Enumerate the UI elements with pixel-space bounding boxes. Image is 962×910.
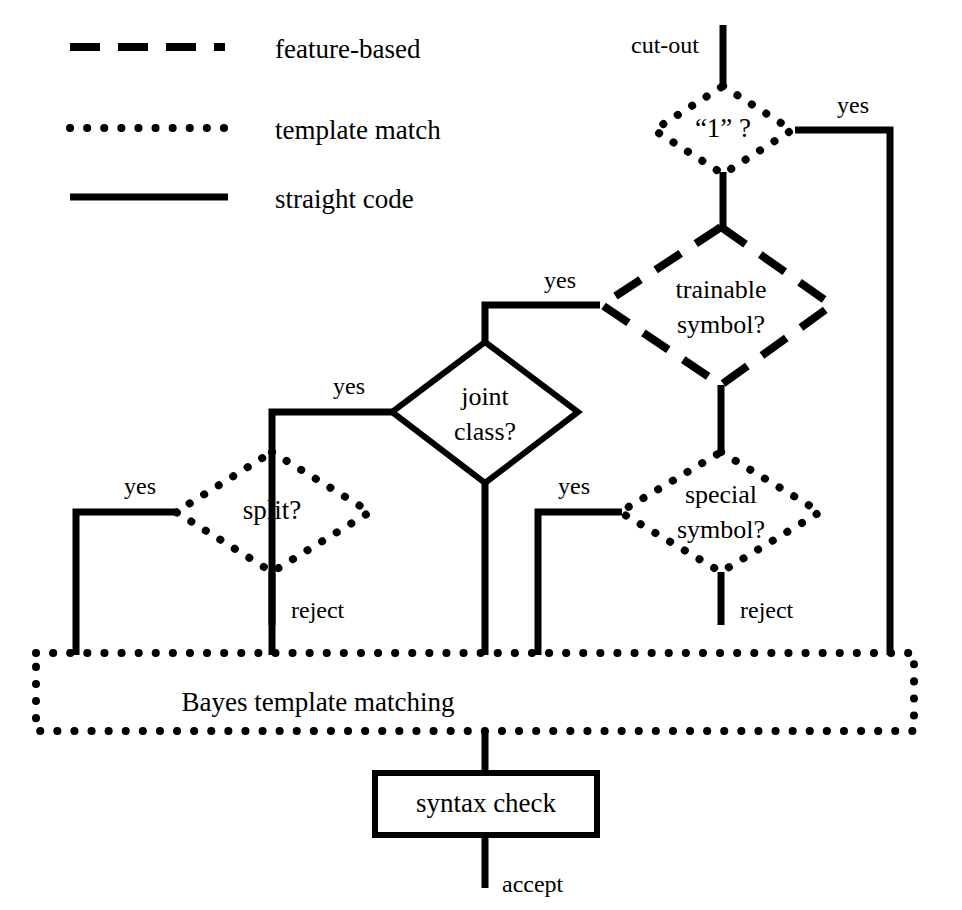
node-trainable-symbol-shape — [602, 227, 832, 385]
legend: feature-based template match straight co… — [70, 34, 441, 214]
label-split-yes: yes — [124, 473, 156, 499]
edge-trainable-yes-to-joint — [485, 305, 600, 343]
node-special-symbol-label-line2: symbol? — [677, 515, 765, 544]
node-special-symbol-shape — [620, 452, 820, 572]
label-special-reject: reject — [740, 597, 794, 623]
label-one-yes: yes — [837, 92, 869, 118]
legend-label-feature-based: feature-based — [275, 34, 421, 64]
label-accept: accept — [502, 871, 564, 897]
node-bayes-template-matching[interactable]: Bayes template matching — [36, 653, 914, 731]
legend-label-template-match: template match — [275, 115, 441, 145]
node-trainable-symbol-label-line1: trainable — [676, 275, 767, 304]
edge-split-yes-to-bayes — [76, 512, 178, 655]
node-syntax-check-label: syntax check — [416, 788, 557, 818]
edge-one-yes-to-bayes — [795, 130, 890, 655]
label-joint-yes: yes — [333, 373, 365, 399]
label-trainable-yes: yes — [544, 267, 576, 293]
legend-label-straight-code: straight code — [275, 184, 414, 214]
node-split-label: split? — [243, 495, 302, 525]
node-special-symbol[interactable]: special symbol? — [620, 452, 820, 572]
node-joint-class-label-line1: joint — [460, 382, 509, 411]
node-one-question-label: “1” ? — [695, 113, 751, 143]
label-cut-out: cut-out — [631, 32, 699, 58]
edge-special-yes-to-bayes — [538, 512, 622, 655]
node-trainable-symbol-label-line2: symbol? — [677, 310, 765, 339]
label-split-reject: reject — [291, 597, 345, 623]
flowchart-figure: feature-based template match straight co… — [0, 0, 962, 910]
node-one-question[interactable]: “1” ? — [654, 86, 792, 174]
node-joint-class-shape — [392, 342, 578, 483]
node-syntax-check[interactable]: syntax check — [375, 773, 597, 835]
node-bayes-label: Bayes template matching — [182, 687, 455, 717]
node-special-symbol-label-line1: special — [685, 480, 757, 509]
flowchart-canvas: feature-based template match straight co… — [0, 0, 962, 910]
node-joint-class-label-line2: class? — [454, 417, 516, 446]
label-special-yes: yes — [558, 473, 590, 499]
node-trainable-symbol[interactable]: trainable symbol? — [602, 227, 832, 385]
node-bayes-shape — [36, 653, 914, 731]
node-joint-class[interactable]: joint class? — [392, 342, 578, 483]
